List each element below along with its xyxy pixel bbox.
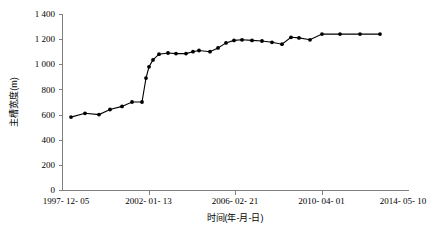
chart-figure: 02004006008001 0001 2001 400 1997- 12- 0… (0, 0, 439, 228)
x-axis-tick-label: 2002- 01- 13 (125, 196, 172, 206)
data-point-marker (120, 105, 124, 109)
data-point-marker (151, 58, 155, 62)
data-point-marker (358, 32, 362, 36)
y-axis-tick-label: 600 (42, 110, 56, 120)
y-axis-tick-label: 1 200 (35, 34, 56, 44)
data-point-marker (174, 52, 178, 56)
x-axis-title: 时间(年-月-日) (207, 212, 264, 223)
data-point-marker (108, 108, 112, 112)
data-point-marker (224, 41, 228, 45)
data-point-marker (197, 49, 201, 53)
data-point-marker (280, 42, 284, 46)
data-point-marker (378, 32, 382, 36)
data-point-marker (270, 40, 274, 44)
data-point-marker (320, 32, 324, 36)
data-point-marker (157, 52, 161, 56)
y-axis-tick-label: 1 000 (35, 59, 56, 69)
data-point-marker (308, 38, 312, 42)
data-point-marker (166, 51, 170, 55)
x-axis-tick-label: 1997- 12- 05 (43, 196, 90, 206)
data-point-marker (208, 50, 212, 54)
data-point-marker (144, 76, 148, 80)
y-axis-tick-label: 1 400 (35, 9, 56, 19)
data-point-marker (250, 39, 254, 43)
y-axis-tick-label: 0 (51, 185, 56, 195)
data-point-marker (260, 39, 264, 43)
x-axis-tick-label: 2010- 04- 01 (298, 196, 345, 206)
y-axis-tick-label: 800 (42, 85, 56, 95)
data-point-marker (69, 115, 73, 119)
data-point-marker (240, 38, 244, 42)
data-point-marker (130, 100, 134, 104)
line-chart: 02004006008001 0001 2001 400 1997- 12- 0… (0, 0, 439, 228)
data-point-marker (216, 46, 220, 50)
y-axis-tick-label: 400 (42, 135, 56, 145)
data-point-marker (140, 100, 144, 104)
data-point-marker (184, 52, 188, 56)
data-point-marker (338, 32, 342, 36)
data-point-marker (83, 111, 87, 115)
data-point-marker (147, 65, 151, 69)
data-point-marker (232, 39, 236, 43)
y-axis-tick-label: 200 (42, 160, 56, 170)
data-point-marker (191, 50, 195, 54)
x-axis-tick-label: 2006- 02- 21 (212, 196, 259, 206)
data-point-marker (297, 36, 301, 40)
x-axis-tick-label: 2014- 05- 10 (380, 196, 427, 206)
data-point-marker (97, 113, 101, 117)
data-point-marker (289, 35, 293, 39)
y-axis-title: 主槽宽度(m) (8, 77, 19, 127)
